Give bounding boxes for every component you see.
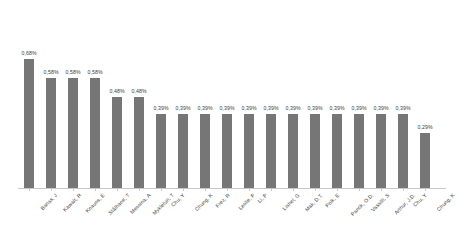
x-axis-category-label: Kawalt, R	[62, 192, 83, 213]
x-axis-category-label: Lishel, G	[281, 192, 300, 211]
x-axis-category-label: Stålhane, T	[107, 192, 131, 216]
bar[interactable]	[222, 114, 232, 188]
x-axis-category-label: Banas, J	[39, 192, 58, 211]
bar-slot: 0,58%	[84, 6, 106, 188]
x-axis-tick	[359, 188, 360, 191]
bar-slot: 0,29%	[414, 6, 436, 188]
x-axis-category-label: Chung, K	[194, 192, 214, 212]
bar-slot: 0,39%	[172, 6, 194, 188]
bar[interactable]	[178, 114, 188, 188]
x-axis-category-label: Frez, R	[214, 192, 231, 209]
x-axis-tick	[425, 188, 426, 191]
bar-slot: 0,58%	[40, 6, 62, 188]
x-axis-tick	[183, 188, 184, 191]
bar-slot: 0,39%	[326, 6, 348, 188]
x-axis-tick	[403, 188, 404, 191]
bar[interactable]	[156, 114, 166, 188]
bar[interactable]	[398, 114, 408, 188]
bar[interactable]	[420, 133, 430, 188]
bar[interactable]	[376, 114, 386, 188]
bar[interactable]	[46, 78, 56, 188]
x-axis-tick	[29, 188, 30, 191]
x-axis-tick	[315, 188, 316, 191]
bar[interactable]	[244, 114, 254, 188]
x-axis-category-label: Mak, D.T.	[304, 192, 324, 212]
x-axis-category-label: Knauss, E	[84, 192, 106, 214]
x-axis-category-label: Polk, E	[324, 192, 340, 208]
x-axis-tick	[73, 188, 74, 191]
bar-slot: 0,39%	[216, 6, 238, 188]
x-axis-category-label: Pantik, O.D.	[350, 192, 375, 217]
bar-slot: 0,68%	[18, 6, 40, 188]
bar[interactable]	[310, 114, 320, 188]
x-axis-tick	[227, 188, 228, 191]
bar[interactable]	[354, 114, 364, 188]
bar[interactable]	[112, 97, 122, 188]
x-axis-tick	[205, 188, 206, 191]
bar-slot: 0,39%	[238, 6, 260, 188]
bar[interactable]	[332, 114, 342, 188]
bar-slot: 0,39%	[348, 6, 370, 188]
bar[interactable]	[134, 97, 144, 188]
bar-slot: 0,39%	[392, 6, 414, 188]
bar[interactable]	[90, 78, 100, 188]
x-axis-tick	[51, 188, 52, 191]
bar-chart: 0,68%0,58%0,58%0,58%0,48%0,48%0,39%0,39%…	[0, 0, 460, 240]
x-axis-tick	[161, 188, 162, 191]
bar-slot: 0,39%	[370, 6, 392, 188]
x-axis-category-label: Messina, A	[129, 192, 152, 215]
bar-slot: 0,39%	[260, 6, 282, 188]
bar-slot: 0,58%	[62, 6, 84, 188]
x-axis-tick	[381, 188, 382, 191]
x-axis-tick	[117, 188, 118, 191]
x-axis-category-label: Chung, K	[436, 192, 456, 212]
bar-slot: 0,48%	[128, 6, 150, 188]
x-axis-tick	[249, 188, 250, 191]
x-axis-category-label: Li, P	[256, 192, 268, 204]
bar-slot: 0,48%	[106, 6, 128, 188]
bar[interactable]	[288, 114, 298, 188]
bar-slot: 0,39%	[194, 6, 216, 188]
bar[interactable]	[68, 78, 78, 188]
x-axis-category-label: Leslie, P	[237, 192, 256, 211]
x-axis-tick	[293, 188, 294, 191]
x-axis-tick	[139, 188, 140, 191]
bar-slot: 0,39%	[304, 6, 326, 188]
x-axis-tick	[337, 188, 338, 191]
bar-slot: 0,39%	[282, 6, 304, 188]
x-axis-tick	[95, 188, 96, 191]
bar[interactable]	[200, 114, 210, 188]
bar-slot: 0,39%	[150, 6, 172, 188]
bar-value-label: 0,29%	[408, 124, 442, 130]
plot-area: 0,68%0,58%0,58%0,58%0,48%0,48%0,39%0,39%…	[18, 6, 452, 188]
bar[interactable]	[24, 59, 34, 188]
bar[interactable]	[266, 114, 276, 188]
x-axis-tick	[271, 188, 272, 191]
